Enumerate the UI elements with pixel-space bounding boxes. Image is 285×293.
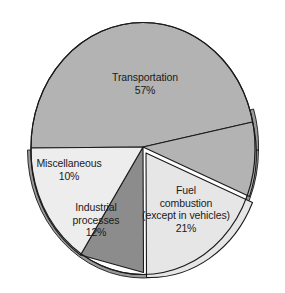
pie-chart-figure: Transportation 57% Miscellaneous 10% Ind… [0, 0, 285, 293]
pie-chart-graphic [0, 0, 285, 293]
